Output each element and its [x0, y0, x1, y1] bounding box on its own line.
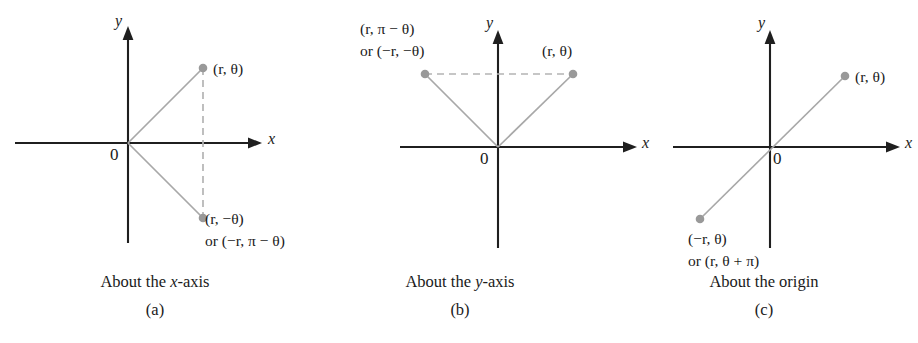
- origin-label-c: 0: [773, 149, 782, 169]
- ray-to-upper-point-a: [128, 68, 203, 143]
- panel-c-about-origin: y x 0 (r, θ) (−r, θ) or (r, θ + π) About…: [610, 0, 918, 343]
- point-upper-c: [841, 72, 850, 81]
- panel-b-about-y-axis: y x 0 (r, π − θ) or (−r, −θ) (r, θ) Abou…: [310, 0, 610, 343]
- y-axis-label-b: y: [486, 14, 493, 32]
- y-axis-a: [123, 26, 134, 243]
- x-axis-c: [673, 142, 900, 153]
- point-right-b: [569, 70, 578, 79]
- point-lower-label-line2-c: or (r, θ + π): [688, 250, 759, 271]
- point-right-label-b: (r, θ): [542, 40, 572, 61]
- point-lower-label-line2-a: or (−r, π − θ): [205, 230, 285, 251]
- point-lower-label-line1-c: (−r, θ): [688, 228, 727, 249]
- sub-caption-c: (c): [610, 300, 918, 320]
- ray-to-left-point-b: [425, 74, 498, 147]
- point-upper-label-a: (r, θ): [213, 58, 243, 79]
- y-axis-b: [493, 30, 504, 248]
- origin-label-b: 0: [480, 149, 489, 169]
- ray-to-right-point-b: [498, 74, 573, 147]
- caption-a: About the x-axis: [0, 272, 310, 292]
- caption-c: About the origin: [610, 272, 918, 292]
- caption-b-suffix: -axis: [482, 272, 514, 291]
- point-upper-label-c: (r, θ): [855, 66, 885, 87]
- caption-b: About the y-axis: [310, 272, 610, 292]
- caption-a-prefix: About the: [100, 272, 170, 291]
- x-axis-b: [400, 142, 637, 153]
- polar-symmetry-figure: y x 0 (r, θ) (r, −θ) or (−r, π − θ) Abou…: [0, 0, 918, 343]
- ray-to-lower-point-a: [128, 143, 203, 218]
- sub-caption-a: (a): [0, 300, 310, 320]
- point-lower-label-line1-a: (r, −θ): [205, 208, 244, 229]
- sub-caption-b: (b): [310, 300, 610, 320]
- x-axis-label-c: x: [905, 134, 912, 152]
- y-axis-label-a: y: [115, 12, 122, 30]
- origin-label-a: 0: [110, 145, 119, 165]
- y-axis-label-c: y: [758, 14, 765, 32]
- panel-a-about-x-axis: y x 0 (r, θ) (r, −θ) or (−r, π − θ) Abou…: [0, 0, 310, 343]
- y-axis-c: [765, 30, 776, 248]
- x-axis-a: [15, 138, 262, 149]
- point-upper-a: [199, 64, 208, 73]
- caption-a-suffix: -axis: [177, 272, 209, 291]
- point-left-b: [421, 70, 430, 79]
- point-lower-c: [696, 215, 705, 224]
- point-left-label-line2-b: or (−r, −θ): [360, 40, 424, 61]
- caption-b-prefix: About the: [405, 272, 475, 291]
- point-left-label-line1-b: (r, π − θ): [360, 18, 414, 39]
- x-axis-label-a: x: [268, 130, 275, 148]
